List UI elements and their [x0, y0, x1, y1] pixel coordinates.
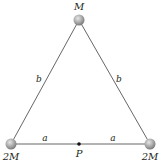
label-mass-bottom-right: 2M	[141, 151, 159, 162]
mass-bottom-left	[6, 139, 17, 150]
side-left	[11, 20, 79, 144]
label-side-bottom-left: a	[42, 133, 47, 143]
triangle-diagram: M 2M 2M P b b a a	[0, 0, 165, 165]
side-right	[79, 20, 150, 144]
mass-bottom-right	[145, 139, 156, 150]
label-mass-top: M	[73, 1, 85, 12]
label-side-left: b	[36, 74, 42, 84]
label-side-right: b	[116, 74, 122, 84]
mass-top	[74, 15, 85, 26]
label-point-p: P	[75, 148, 83, 159]
label-mass-bottom-left: 2M	[2, 151, 20, 162]
point-p	[77, 142, 81, 146]
label-side-bottom-right: a	[110, 133, 115, 143]
